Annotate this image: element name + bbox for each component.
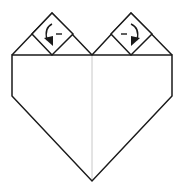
- heart-diagram-svg: [0, 0, 182, 193]
- origami-diagram: Origami heart folding step: [0, 0, 182, 193]
- left-diamond-flap: [32, 13, 73, 55]
- right-diamond-flap: [111, 13, 152, 55]
